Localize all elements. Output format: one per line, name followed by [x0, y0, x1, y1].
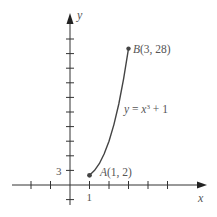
curve [90, 49, 129, 176]
y-axis-label: y [76, 8, 83, 22]
curve-label: y = x3 + 1 [123, 103, 168, 116]
point-a [87, 173, 92, 178]
x-axis-arrow-icon [197, 182, 207, 189]
graph: y x 1 3 A(1, 2) B(3, 28) y = x3 + 1 [0, 0, 217, 217]
x-tick-label-1: 1 [87, 191, 93, 203]
point-b [126, 46, 130, 50]
point-b-label: B(3, 28) [133, 43, 171, 56]
point-a-label: A(1, 2) [99, 166, 132, 179]
y-tick-label-3: 3 [56, 165, 62, 177]
x-axis-label: x [197, 191, 204, 205]
y-axis-arrow-icon [67, 13, 74, 24]
